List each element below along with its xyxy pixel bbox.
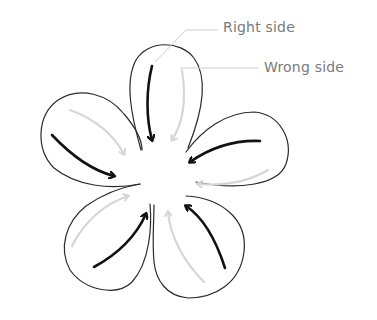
wrong-arrow-bottom-right	[168, 212, 204, 282]
wrong-arrow-left	[70, 110, 124, 154]
right-arrow-bottom-left	[94, 214, 146, 267]
wrong-arrow-right	[198, 170, 268, 184]
wrong-side-label: Wrong side	[264, 59, 344, 75]
right-arrow-right	[190, 141, 260, 162]
right-arrow-top	[148, 66, 153, 140]
wrong-arrow-bottom-left	[72, 196, 128, 246]
flower-diagram	[0, 0, 377, 320]
leader-lines	[155, 30, 258, 68]
petal-top	[130, 45, 202, 150]
right-arrow-left	[52, 135, 114, 176]
right-side-arrows	[52, 66, 260, 268]
wrong-side-arrows	[70, 70, 268, 282]
petal-outlines	[41, 45, 288, 298]
right-side-label: Right side	[223, 19, 295, 35]
leader-right-side	[155, 30, 218, 62]
right-arrow-bottom-right	[186, 206, 225, 268]
wrong-arrow-top	[172, 70, 184, 140]
petal-right	[186, 112, 288, 186]
petal-bottom-right	[153, 196, 244, 298]
